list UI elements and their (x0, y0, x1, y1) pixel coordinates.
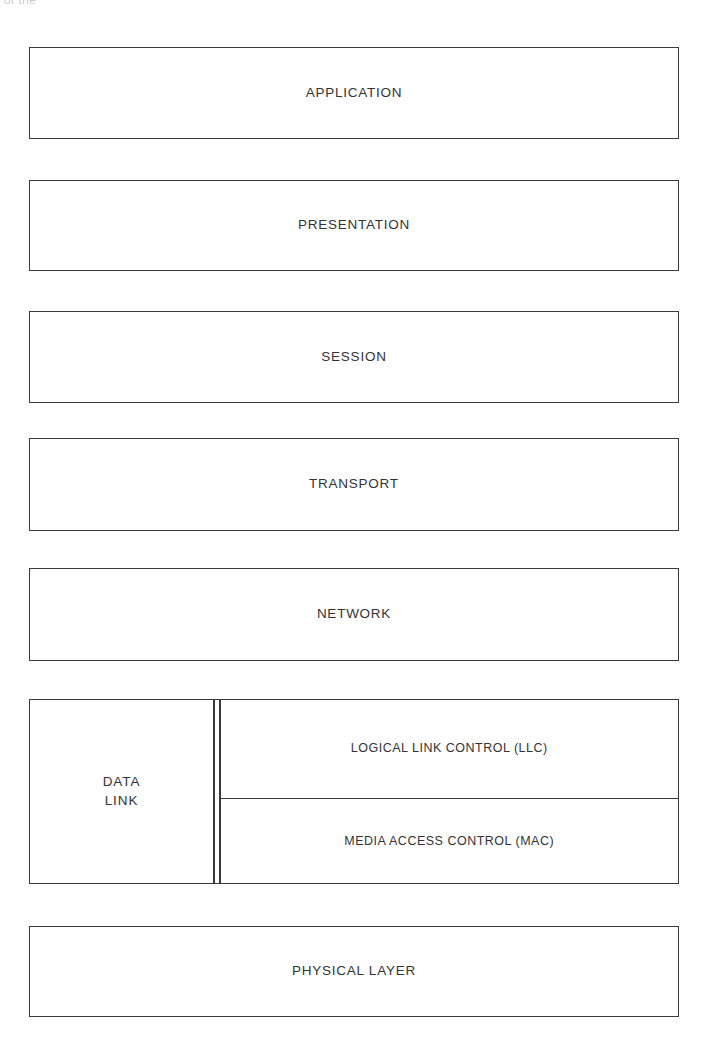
layer-box-physical: PHYSICAL LAYER (29, 926, 679, 1017)
layer-box-application: APPLICATION (29, 47, 679, 139)
layer-label-transport: TRANSPORT (309, 475, 399, 493)
layer-label-application: APPLICATION (306, 84, 403, 102)
osi-model-diagram: of the APPLICATION PRESENTATION SESSION … (0, 0, 727, 1041)
data-link-sublayer-stack: LOGICAL LINK CONTROL (LLC) MEDIA ACCESS … (221, 700, 679, 883)
layer-box-presentation: PRESENTATION (29, 180, 679, 271)
sublayer-label-mac: MEDIA ACCESS CONTROL (MAC) (344, 833, 554, 850)
layer-label-physical: PHYSICAL LAYER (292, 962, 416, 980)
layer-box-data-link: DATALINK LOGICAL LINK CONTROL (LLC) MEDI… (29, 699, 679, 884)
layer-box-network: NETWORK (29, 568, 679, 661)
sublayer-box-mac: MEDIA ACCESS CONTROL (MAC) (221, 800, 679, 883)
layer-label-session: SESSION (321, 348, 386, 366)
layer-box-transport: TRANSPORT (29, 438, 679, 531)
layer-box-session: SESSION (29, 311, 679, 403)
sublayer-label-llc: LOGICAL LINK CONTROL (LLC) (351, 740, 548, 757)
layer-label-data-link: DATALINK (103, 773, 141, 809)
data-link-vertical-divider-inner (213, 700, 215, 883)
sublayer-box-llc: LOGICAL LINK CONTROL (LLC) (221, 700, 679, 799)
scan-artifact-text: of the (4, 0, 78, 7)
data-link-title-cell: DATALINK (30, 700, 213, 883)
layer-label-network: NETWORK (317, 605, 391, 623)
layer-label-presentation: PRESENTATION (298, 216, 410, 234)
layer-label-data-link-line-2: LINK (105, 793, 139, 808)
layer-label-data-link-line-1: DATA (103, 774, 141, 789)
